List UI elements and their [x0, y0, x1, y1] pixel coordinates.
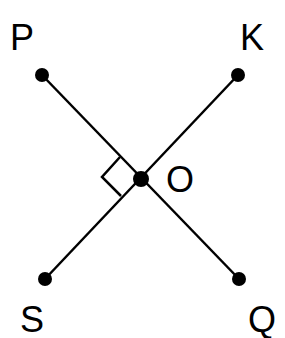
right-angle-marker	[102, 157, 121, 196]
point-k	[231, 68, 245, 82]
point-s	[38, 272, 52, 286]
label-k: K	[240, 20, 264, 56]
point-o	[133, 171, 149, 187]
label-p: P	[10, 20, 34, 56]
label-q: Q	[248, 302, 276, 338]
diagram: P K O S Q	[0, 0, 285, 338]
label-o: O	[166, 162, 194, 198]
label-s: S	[20, 302, 44, 338]
point-q	[232, 272, 246, 286]
point-p	[35, 68, 49, 82]
